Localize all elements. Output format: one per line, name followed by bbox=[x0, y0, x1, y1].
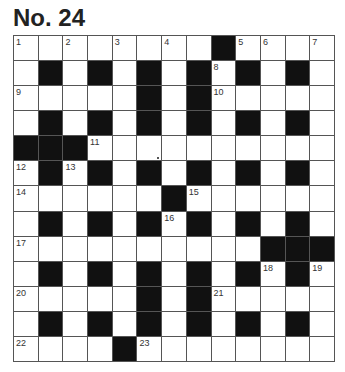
grid-cell[interactable] bbox=[212, 136, 236, 160]
grid-cell[interactable] bbox=[113, 186, 137, 210]
grid-cell[interactable] bbox=[14, 111, 38, 135]
grid-cell[interactable]: 10 bbox=[212, 86, 236, 110]
grid-cell[interactable] bbox=[187, 237, 211, 261]
grid-cell[interactable] bbox=[14, 61, 38, 85]
grid-cell[interactable] bbox=[286, 36, 310, 60]
grid-cell[interactable] bbox=[162, 61, 186, 85]
grid-cell[interactable] bbox=[310, 312, 334, 336]
grid-cell[interactable]: 8 bbox=[212, 61, 236, 85]
grid-cell[interactable] bbox=[113, 262, 137, 286]
grid-cell[interactable] bbox=[310, 287, 334, 311]
grid-cell[interactable] bbox=[236, 287, 260, 311]
grid-cell[interactable] bbox=[113, 86, 137, 110]
grid-cell[interactable] bbox=[137, 186, 161, 210]
grid-cell[interactable] bbox=[236, 136, 260, 160]
grid-cell[interactable]: 7 bbox=[310, 36, 334, 60]
grid-cell[interactable] bbox=[261, 61, 285, 85]
grid-cell[interactable] bbox=[212, 337, 236, 361]
grid-cell[interactable] bbox=[212, 237, 236, 261]
grid-cell[interactable] bbox=[187, 36, 211, 60]
grid-cell[interactable] bbox=[212, 262, 236, 286]
grid-cell[interactable] bbox=[187, 136, 211, 160]
grid-cell[interactable] bbox=[310, 337, 334, 361]
grid-cell[interactable]: 15 bbox=[187, 186, 211, 210]
grid-cell[interactable] bbox=[162, 337, 186, 361]
grid-cell[interactable] bbox=[113, 212, 137, 236]
grid-cell[interactable] bbox=[113, 161, 137, 185]
grid-cell[interactable] bbox=[162, 111, 186, 135]
grid-cell[interactable] bbox=[63, 262, 87, 286]
grid-cell[interactable] bbox=[63, 237, 87, 261]
grid-cell[interactable] bbox=[236, 86, 260, 110]
grid-cell[interactable] bbox=[286, 86, 310, 110]
grid-cell[interactable] bbox=[261, 287, 285, 311]
grid-cell[interactable] bbox=[113, 61, 137, 85]
grid-cell[interactable] bbox=[261, 337, 285, 361]
grid-cell[interactable]: 14 bbox=[14, 186, 38, 210]
grid-cell[interactable] bbox=[310, 136, 334, 160]
grid-cell[interactable] bbox=[63, 111, 87, 135]
grid-cell[interactable] bbox=[310, 212, 334, 236]
grid-cell[interactable] bbox=[39, 186, 63, 210]
grid-cell[interactable] bbox=[261, 212, 285, 236]
grid-cell[interactable] bbox=[310, 111, 334, 135]
grid-cell[interactable] bbox=[162, 136, 186, 160]
grid-cell[interactable] bbox=[261, 186, 285, 210]
grid-cell[interactable] bbox=[39, 36, 63, 60]
grid-cell[interactable] bbox=[63, 287, 87, 311]
grid-cell[interactable]: 17 bbox=[14, 237, 38, 261]
grid-cell[interactable] bbox=[137, 36, 161, 60]
grid-cell[interactable] bbox=[286, 136, 310, 160]
grid-cell[interactable] bbox=[14, 262, 38, 286]
grid-cell[interactable] bbox=[236, 337, 260, 361]
grid-cell[interactable]: 2 bbox=[63, 36, 87, 60]
grid-cell[interactable]: 4 bbox=[162, 36, 186, 60]
grid-cell[interactable] bbox=[88, 337, 112, 361]
grid-cell[interactable] bbox=[63, 212, 87, 236]
grid-cell[interactable] bbox=[261, 111, 285, 135]
grid-cell[interactable] bbox=[63, 337, 87, 361]
grid-cell[interactable] bbox=[14, 212, 38, 236]
grid-cell[interactable]: 3 bbox=[113, 36, 137, 60]
grid-cell[interactable] bbox=[162, 237, 186, 261]
grid-cell[interactable] bbox=[137, 237, 161, 261]
grid-cell[interactable] bbox=[88, 237, 112, 261]
grid-cell[interactable] bbox=[63, 186, 87, 210]
grid-cell[interactable]: 22 bbox=[14, 337, 38, 361]
grid-cell[interactable] bbox=[162, 312, 186, 336]
grid-cell[interactable] bbox=[212, 312, 236, 336]
grid-cell[interactable]: 20 bbox=[14, 287, 38, 311]
grid-cell[interactable] bbox=[162, 161, 186, 185]
grid-cell[interactable] bbox=[88, 86, 112, 110]
grid-cell[interactable]: 19 bbox=[310, 262, 334, 286]
grid-cell[interactable] bbox=[286, 287, 310, 311]
grid-cell[interactable] bbox=[286, 186, 310, 210]
grid-cell[interactable] bbox=[14, 312, 38, 336]
grid-cell[interactable]: 11 bbox=[88, 136, 112, 160]
grid-cell[interactable]: 6 bbox=[261, 36, 285, 60]
grid-cell[interactable] bbox=[286, 337, 310, 361]
grid-cell[interactable]: 9 bbox=[14, 86, 38, 110]
grid-cell[interactable] bbox=[63, 312, 87, 336]
grid-cell[interactable] bbox=[261, 312, 285, 336]
grid-cell[interactable] bbox=[236, 186, 260, 210]
grid-cell[interactable] bbox=[39, 237, 63, 261]
grid-cell[interactable]: 1 bbox=[14, 36, 38, 60]
grid-cell[interactable] bbox=[39, 287, 63, 311]
grid-cell[interactable] bbox=[88, 287, 112, 311]
grid-cell[interactable] bbox=[261, 86, 285, 110]
grid-cell[interactable] bbox=[39, 86, 63, 110]
grid-cell[interactable] bbox=[162, 86, 186, 110]
grid-cell[interactable] bbox=[310, 186, 334, 210]
grid-cell[interactable] bbox=[261, 136, 285, 160]
grid-cell[interactable]: 23 bbox=[137, 337, 161, 361]
grid-cell[interactable]: 5 bbox=[236, 36, 260, 60]
grid-cell[interactable]: 18 bbox=[261, 262, 285, 286]
grid-cell[interactable] bbox=[162, 262, 186, 286]
grid-cell[interactable]: 13 bbox=[63, 161, 87, 185]
grid-cell[interactable] bbox=[113, 136, 137, 160]
grid-cell[interactable] bbox=[113, 312, 137, 336]
grid-cell[interactable] bbox=[113, 111, 137, 135]
grid-cell[interactable] bbox=[113, 237, 137, 261]
grid-cell[interactable] bbox=[162, 287, 186, 311]
